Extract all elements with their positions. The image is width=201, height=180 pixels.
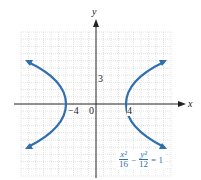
- denominator-16: 16: [118, 160, 129, 169]
- minus-sign: −: [131, 155, 136, 165]
- equals-one: = 1: [151, 155, 163, 165]
- denominator-12: 12: [138, 160, 149, 169]
- y-axis-label: y: [92, 7, 96, 17]
- tick-label-origin: 0: [89, 106, 94, 116]
- fraction-y: y² 12: [138, 150, 149, 169]
- tick-label-3: 3: [98, 74, 103, 84]
- fraction-x: x² 16: [118, 150, 129, 169]
- y-axis-arrow-icon: [93, 19, 99, 27]
- hyperbola-graph: [0, 0, 201, 180]
- equation-label: x² 16 − y² 12 = 1: [116, 150, 165, 169]
- tick-label-neg4: −4: [68, 106, 79, 116]
- x-axis-arrow-icon: [178, 101, 186, 107]
- x-axis-label: x: [188, 99, 192, 109]
- tick-label-4: 4: [127, 106, 132, 116]
